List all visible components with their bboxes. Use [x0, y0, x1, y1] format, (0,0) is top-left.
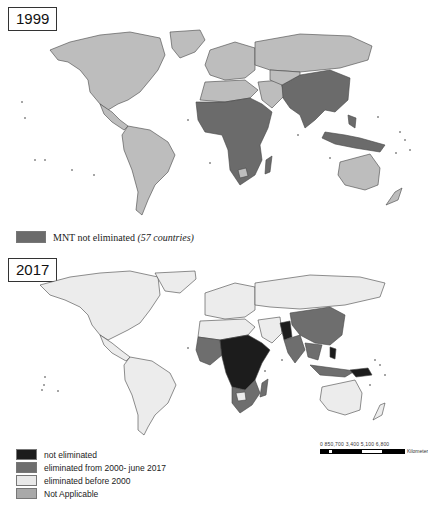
new-zealand — [373, 403, 385, 420]
world-map-2017 — [0, 265, 420, 445]
legend-swatch — [16, 462, 37, 473]
north-america — [40, 271, 160, 340]
botswana — [238, 168, 248, 178]
legend-swatch — [16, 449, 37, 460]
legend-swatch — [16, 475, 37, 486]
south-america — [124, 357, 176, 435]
europe — [205, 283, 255, 319]
legend-item-not-eliminated: not eliminated — [16, 448, 166, 461]
middle-east — [258, 317, 282, 343]
greenland — [155, 271, 196, 293]
legend-item-eliminated-2000-2017: eliminated from 2000- june 2017 — [16, 461, 166, 474]
greenland — [170, 30, 205, 58]
madagascar — [265, 156, 272, 174]
west-africa — [196, 337, 222, 365]
india — [284, 335, 305, 363]
world-map-1999 — [0, 20, 420, 225]
sub-saharan-africa — [196, 98, 272, 185]
central-america — [100, 104, 128, 130]
legend-label: eliminated from 2000- june 2017 — [44, 463, 166, 473]
continents-1999 — [50, 30, 402, 215]
madagascar — [260, 379, 268, 397]
legend-item-eliminated-before-2000: eliminated before 2000 — [16, 474, 166, 487]
scale-graphic: Kilometer — [320, 448, 428, 454]
legend-2017: not eliminated eliminated from 2000- jun… — [16, 448, 166, 500]
legend-count-note: (57 countries) — [138, 232, 194, 243]
legend-1999: MNT not eliminated (57 countries) — [16, 231, 194, 243]
scale-bar: 0 850,700 3,400 5,100 6,800 Kilometer — [320, 441, 428, 454]
scale-ticks: 0 850,700 3,400 5,100 6,800 — [320, 441, 428, 447]
legend-swatch — [16, 488, 37, 499]
legend-label: eliminated before 2000 — [44, 476, 130, 486]
scale-unit: Kilometer — [407, 448, 428, 454]
legend-label: not eliminated — [44, 450, 97, 460]
continents-2017 — [40, 271, 385, 435]
south-america — [122, 126, 175, 215]
indonesia — [322, 132, 385, 152]
pakistan — [280, 321, 292, 340]
legend-label-mnt: MNT not eliminated — [53, 232, 135, 243]
legend-swatch-mnt — [16, 231, 46, 243]
papua — [350, 368, 372, 377]
central-america — [100, 335, 130, 361]
indonesia — [310, 365, 355, 377]
europe — [205, 42, 255, 80]
australia — [320, 380, 362, 415]
new-zealand — [386, 188, 402, 205]
se-asia — [305, 343, 322, 360]
russia — [255, 34, 372, 72]
botswana — [236, 392, 246, 401]
legend-item-not-applicable: Not Applicable — [16, 487, 166, 500]
australia — [338, 154, 380, 190]
philippines — [348, 115, 356, 128]
legend-label: Not Applicable — [44, 489, 98, 499]
north-america — [50, 32, 165, 110]
philippines — [330, 347, 336, 359]
central-africa — [220, 335, 270, 390]
russia — [255, 275, 385, 309]
